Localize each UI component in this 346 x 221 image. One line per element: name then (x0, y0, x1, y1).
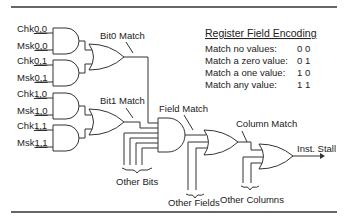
other-columns-wires (243, 157, 264, 183)
input-label-msk11: Msk1,1 (17, 137, 48, 148)
bit0-leader (126, 42, 133, 53)
and-gate-11 (53, 125, 79, 151)
encoding-row-label: Match a one value: (205, 67, 285, 78)
field-match-label: Field Match (159, 103, 208, 114)
encoding-row-value: 0 0 (297, 43, 310, 54)
bit0-match-label: Bit0 Match (100, 30, 145, 41)
encoding-row-value: 0 1 (297, 55, 310, 66)
encoding-row-value: 1 0 (297, 67, 310, 78)
logic-diagram: Chk0,0 Msk0,0 Chk0,1 Msk0,1 Chk1,0 Msk1,… (0, 0, 346, 221)
input-label-chk11: Chk1,1 (17, 120, 47, 131)
other-bits-brace (122, 168, 152, 173)
other-fields-wires (188, 142, 208, 190)
inst-stall-label: Inst. Stall (297, 143, 336, 154)
and-gate-field (158, 118, 185, 152)
column-leader (242, 131, 247, 142)
input-label-chk00: Chk0,0 (17, 23, 47, 34)
or-gate-field (204, 130, 238, 155)
and-to-or-wires (79, 41, 93, 138)
input-label-msk01: Msk0,1 (17, 72, 48, 83)
field-leader (184, 115, 193, 130)
other-columns-brace (241, 186, 259, 190)
other-fields-label: Other Fields (168, 197, 220, 208)
other-bits-label: Other Bits (116, 176, 158, 187)
encoding-legend: Register Field Encoding Match no values:… (205, 27, 317, 90)
and-gate-00 (53, 28, 79, 54)
input-label-chk10: Chk1,0 (17, 88, 47, 99)
column-wire (238, 142, 262, 150)
or-gate-bit0 (89, 44, 124, 70)
and-gate-10 (53, 93, 79, 119)
or-gate-column (259, 144, 293, 169)
or-gate-bit1 (89, 109, 124, 135)
encoding-row-value: 1 1 (297, 79, 310, 90)
column-match-label: Column Match (236, 118, 297, 129)
encoding-row-label: Match a zero value: (205, 55, 288, 66)
other-columns-label: Other Columns (220, 194, 284, 205)
encoding-row-label: Match no values: (205, 43, 277, 54)
input-label-msk10: Msk1,0 (17, 105, 48, 116)
other-bits-wires (124, 133, 158, 165)
and-gate-01 (53, 60, 79, 86)
bit1-leader (126, 108, 133, 118)
input-labels: Chk0,0 Msk0,0 Chk0,1 Msk0,1 Chk1,0 Msk1,… (17, 23, 48, 148)
encoding-row-label: Match any value: (205, 79, 277, 90)
encoding-title: Register Field Encoding (205, 27, 317, 39)
input-label-msk00: Msk0,0 (17, 40, 48, 51)
input-label-chk01: Chk0,1 (17, 55, 47, 66)
bit1-match-label: Bit1 Match (100, 95, 145, 106)
